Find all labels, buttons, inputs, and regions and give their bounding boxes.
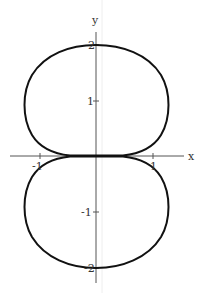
y-tick-label: -1 — [81, 206, 92, 219]
y-tick-label: -2 — [84, 262, 95, 275]
x-axis-label: x — [188, 150, 195, 163]
y-tick-label: 1 — [87, 95, 94, 108]
y-axis-label: y — [91, 14, 99, 27]
plot: y x -1 1 2 1 -1 -2 — [0, 0, 206, 293]
y-tick-label: 2 — [88, 39, 95, 52]
x-tick-label: -1 — [32, 160, 43, 173]
x-tick-label: 1 — [150, 160, 157, 173]
